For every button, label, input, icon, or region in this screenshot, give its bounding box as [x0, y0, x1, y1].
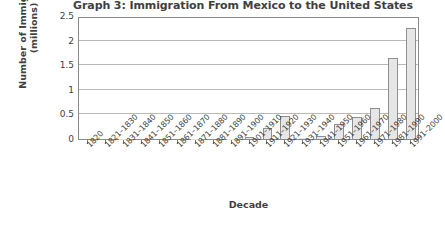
x-axis-title: Decade — [78, 199, 419, 210]
chart-title: Graph 3: Immigration From Mexico to the … — [60, 0, 426, 12]
y-axis-tick-label: 2.5 — [50, 11, 74, 21]
y-axis-tick-label: 2 — [50, 36, 74, 46]
y-axis-title-text: Number of Immigrants (millions) — [17, 0, 39, 89]
y-axis-tick-label: 1 — [50, 85, 74, 95]
x-axis-tick-labels: 18201821–18301831–18401841–18501851–1860… — [78, 143, 419, 195]
y-axis-tick-label: 0 — [50, 134, 74, 144]
y-axis-tick-label: 1.5 — [50, 60, 74, 70]
y-axis-title: Number of Immigrants (millions) — [14, 0, 42, 92]
y-axis-tick-label: 0.5 — [50, 109, 74, 119]
